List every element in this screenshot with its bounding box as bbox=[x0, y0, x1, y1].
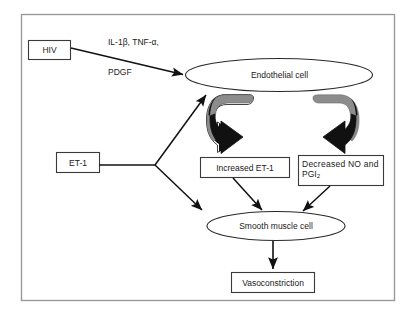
curved-arrow-endothelial-to-decreased-no bbox=[313, 95, 359, 154]
et1-box bbox=[57, 153, 100, 173]
cytokines-annotation: IL-1β, TNF-α, PDGF bbox=[108, 17, 159, 97]
vasoconstriction-box bbox=[232, 273, 315, 293]
edge-et1-to-smooth-muscle bbox=[155, 165, 202, 210]
hiv-box bbox=[29, 41, 71, 60]
pathway-diagram: IL-1β, TNF-α, PDGF HIV Endothelial cell … bbox=[0, 0, 414, 317]
smooth-muscle-cell-ellipse bbox=[207, 212, 345, 241]
edge-et1-to-endothelial bbox=[155, 95, 206, 165]
curved-arrow-endothelial-to-increased-et1 bbox=[206, 95, 253, 154]
decreased-no-box bbox=[299, 156, 384, 186]
edge-decreased-no-to-smooth-muscle bbox=[303, 186, 330, 211]
increased-et1-box bbox=[201, 158, 290, 178]
endothelial-cell-ellipse bbox=[186, 59, 373, 92]
cytokines-line-2: PDGF bbox=[108, 67, 159, 77]
cytokines-line-1: IL-1β, TNF-α, bbox=[108, 37, 159, 47]
diagram-canvas bbox=[0, 0, 414, 317]
edge-increased-et1-to-smooth-muscle bbox=[233, 178, 262, 210]
